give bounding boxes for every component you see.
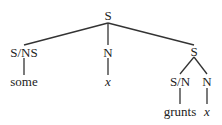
node-right-left: S/N xyxy=(170,74,191,89)
edge-right-right xyxy=(194,57,207,74)
node-left: S/NS xyxy=(10,45,37,60)
leaf-left: some xyxy=(10,74,38,89)
node-right-right: N xyxy=(202,74,212,89)
edge-root-left xyxy=(24,23,108,45)
syntax-tree: S S/NS some N x S S/N grunts N x xyxy=(0,0,222,125)
edge-right-left xyxy=(180,57,194,74)
leaf-right-left: grunts xyxy=(164,104,197,119)
node-root: S xyxy=(104,8,111,23)
node-middle: N xyxy=(103,45,113,60)
leaf-right-right: x xyxy=(203,104,210,119)
node-right: S xyxy=(190,44,197,59)
leaf-middle: x xyxy=(104,74,111,89)
edge-root-right xyxy=(108,23,194,45)
